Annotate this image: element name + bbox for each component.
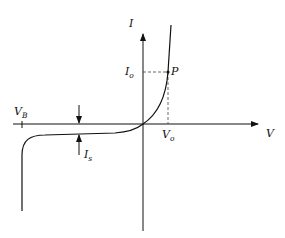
is-label: Is [83, 148, 92, 163]
i-axis-label: I [128, 17, 134, 30]
v-axis-label: V [266, 127, 275, 140]
iv-diagram: I V VB Io Vo Is P [0, 0, 285, 238]
point-p-marker [166, 70, 169, 73]
vb-label: VB [14, 105, 28, 120]
point-p-label: P [170, 65, 179, 78]
vo-label: Vo [162, 128, 175, 143]
io-label: Io [124, 65, 134, 80]
iv-curve [22, 25, 171, 211]
